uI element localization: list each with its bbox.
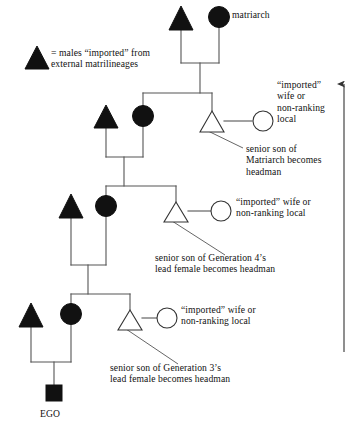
gen5-imported-male-triangle	[169, 6, 193, 30]
gen4-lineage-female-circle	[133, 106, 154, 127]
gen2-headman-son-triangle	[118, 310, 142, 330]
legend-label: = males “imported” from external matrili…	[51, 47, 201, 70]
gen3-imported-male-triangle	[59, 194, 83, 218]
gen2-imported-male-triangle	[19, 303, 43, 327]
caption-leader-lines	[126, 131, 243, 364]
gen3-headman-son-triangle	[164, 202, 188, 222]
ego-square	[46, 385, 62, 401]
legend-triangle-icon	[25, 46, 49, 69]
gen3-lineage-female-circle	[96, 196, 117, 217]
matriarch-label: matriarch	[232, 9, 270, 20]
gen3-wife-circle	[211, 201, 231, 221]
wife-label-gen4: “imported” wife or non-ranking local	[277, 79, 353, 124]
headman-caption-gen4: senior son of Matriarch becomes headman	[246, 143, 358, 177]
wife-label-gen2: “imported” wife or non-ranking local	[181, 304, 305, 327]
leader-line-gen2	[126, 329, 178, 364]
gen4-headman-son-triangle	[200, 111, 224, 132]
gen4-imported-male-triangle	[94, 105, 118, 128]
gen4-wife-circle	[253, 111, 273, 131]
gen5-matriarch-circle	[209, 7, 230, 28]
kinship-diagram: matriarch = males “imported” from extern…	[0, 0, 360, 432]
gen2-wife-circle	[157, 308, 177, 328]
wife-label-gen3: “imported” wife or non-ranking local	[236, 196, 360, 219]
ego-label: EGO	[40, 408, 60, 419]
leader-line-gen3	[172, 221, 225, 255]
gen2-lineage-female-circle	[61, 304, 82, 325]
leader-line-gen4	[208, 131, 243, 148]
headman-caption-gen3: senior son of Generation 4’s lead female…	[155, 252, 360, 275]
headman-caption-gen2: senior son of Generation 3’s lead female…	[110, 362, 315, 385]
